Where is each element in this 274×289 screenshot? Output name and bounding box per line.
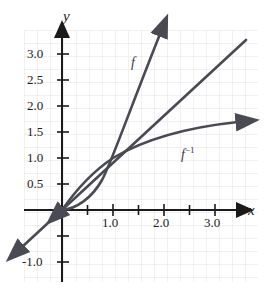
- f-inverse-exponent: −1: [185, 145, 195, 155]
- x-tick-label-3.0: 3.0: [204, 216, 220, 229]
- curve-f: [62, 34, 160, 210]
- figure-canvas: x y 3.0 2.5 2.0 1.5 1.0 0.5 -1.0 1.0 2.0…: [0, 0, 274, 289]
- y-tick-label-2.0: 2.0: [27, 99, 43, 112]
- y-tick-label-0.5: 0.5: [27, 177, 43, 190]
- y-tick-label-1.0: 1.0: [27, 151, 43, 164]
- curve-label-f-inverse: f−1: [181, 146, 194, 162]
- axis-lines: [24, 36, 238, 282]
- x-tick-label-2.0: 2.0: [153, 216, 169, 229]
- y-tick-label-minus-1.0: -1.0: [22, 255, 43, 268]
- x-axis-label: x: [248, 203, 255, 218]
- curves-and-axes: [0, 0, 274, 289]
- x-tick-label-1.0: 1.0: [102, 216, 118, 229]
- y-tick-label-2.5: 2.5: [27, 73, 43, 86]
- curve-label-f: f: [131, 56, 135, 70]
- y-tick-label-1.5: 1.5: [27, 125, 43, 138]
- y-tick-label-3.0: 3.0: [27, 47, 43, 60]
- y-axis-label: y: [63, 9, 70, 24]
